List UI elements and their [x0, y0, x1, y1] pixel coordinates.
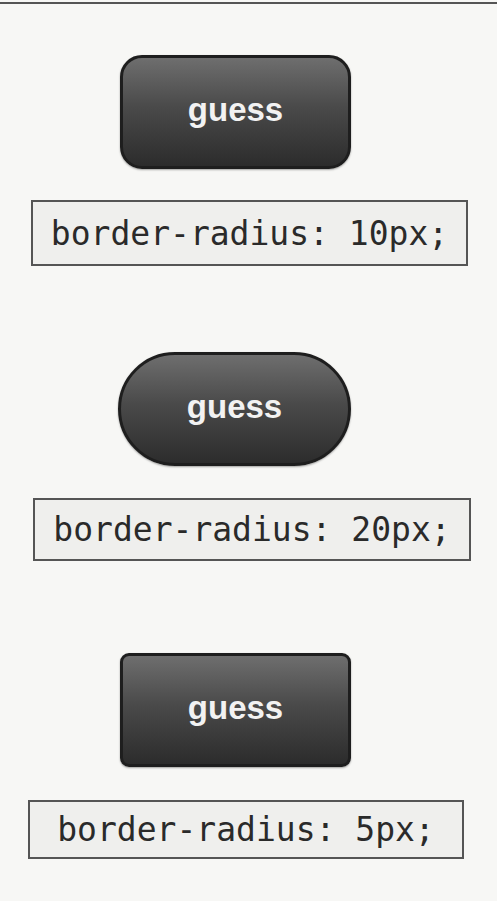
- top-rule-divider: [0, 2, 497, 4]
- css-caption-radius-5: border-radius: 5px;: [28, 800, 464, 859]
- css-caption-text: border-radius: 5px;: [57, 810, 435, 849]
- guess-button-radius-10[interactable]: guess: [120, 55, 351, 169]
- guess-button-radius-20[interactable]: guess: [118, 352, 351, 466]
- guess-button-radius-5[interactable]: guess: [120, 653, 351, 767]
- css-caption-radius-20: border-radius: 20px;: [33, 498, 471, 561]
- css-caption-text: border-radius: 10px;: [51, 214, 448, 253]
- guess-button-label: guess: [188, 91, 283, 129]
- guess-button-label: guess: [188, 689, 283, 727]
- guess-button-label: guess: [187, 388, 282, 426]
- css-caption-radius-10: border-radius: 10px;: [31, 200, 468, 266]
- css-caption-text: border-radius: 20px;: [53, 510, 450, 549]
